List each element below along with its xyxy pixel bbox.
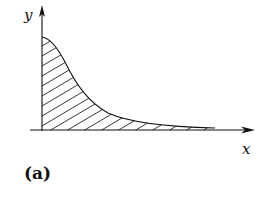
decay-curve (42, 37, 215, 128)
y-axis-label: y (23, 6, 33, 24)
figure-caption: (a) (24, 163, 51, 183)
hatch-fill (42, 24, 267, 131)
x-axis-label: x (242, 140, 251, 158)
